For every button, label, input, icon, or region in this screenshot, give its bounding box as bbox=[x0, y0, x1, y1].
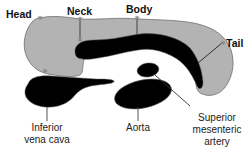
sma-label-line2: mesenteric bbox=[187, 124, 247, 136]
head-marker-icon: ✱ bbox=[37, 14, 42, 21]
aorta bbox=[112, 74, 175, 113]
label-tail: Tail bbox=[226, 38, 243, 49]
ivc-label-line1: Inferior bbox=[22, 122, 72, 134]
body-marker-icon: ✱ bbox=[134, 14, 139, 21]
aorta-label-line1: Aorta bbox=[122, 122, 154, 134]
neck-inner-marker-icon: ✱ bbox=[77, 36, 82, 43]
head-lower-marker-icon: ✱ bbox=[42, 67, 47, 74]
tail-marker-icon: ✱ bbox=[220, 39, 225, 46]
label-neck: Neck bbox=[67, 6, 92, 17]
label-head: Head bbox=[6, 9, 32, 20]
sma-label-line1: Superior bbox=[187, 112, 247, 124]
ivc-label-line2: vena cava bbox=[22, 134, 72, 146]
label-inferior-vena-cava: Inferior vena cava bbox=[22, 122, 72, 146]
label-superior-mesenteric-artery: Superior mesenteric artery bbox=[187, 112, 247, 148]
label-aorta: Aorta bbox=[122, 122, 154, 134]
inferior-vena-cava bbox=[25, 76, 114, 107]
label-body: Body bbox=[126, 4, 152, 15]
sma-label-line3: artery bbox=[187, 136, 247, 148]
